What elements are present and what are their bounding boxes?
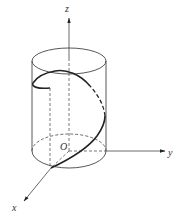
x-axis	[24, 168, 51, 201]
origin-label: O	[60, 141, 67, 152]
helix-left-loop	[33, 83, 50, 88]
x-axis-label: x	[11, 202, 17, 213]
y-axis-label: y	[167, 147, 173, 158]
z-axis-label: z	[64, 3, 69, 14]
cylinder-helix-diagram: z y x O	[0, 0, 178, 216]
helix-back-dashed	[90, 86, 105, 116]
